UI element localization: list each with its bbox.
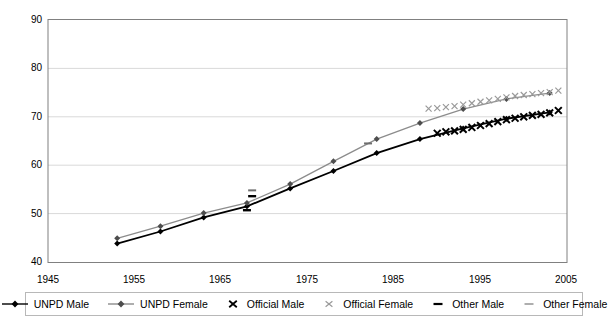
data-point-marker (529, 91, 535, 97)
legend-item-official-male: Official Male (226, 298, 305, 310)
data-point-marker (330, 158, 336, 164)
gridlines (48, 68, 567, 213)
series-official-female (426, 88, 562, 112)
data-point-marker (287, 181, 293, 187)
data-point-marker (417, 136, 423, 142)
plot-area (0, 0, 610, 325)
chart-container: 90 80 70 60 50 40 1945 1955 1965 1975 19… (0, 0, 610, 325)
legend-label: Other Male (452, 298, 504, 310)
series-official-male (434, 107, 562, 137)
data-point-marker (434, 105, 440, 111)
x-marker-icon (322, 298, 336, 310)
data-point-marker (478, 99, 484, 105)
data-point-marker (374, 150, 380, 156)
legend: UNPD Male UNPD Female Official Male Offi… (25, 292, 583, 316)
data-point-marker (443, 104, 449, 110)
line-diamond-icon (1, 298, 29, 310)
data-point-marker (417, 120, 423, 126)
series-unpd-male (114, 109, 553, 246)
data-point-marker (114, 235, 120, 241)
data-point-marker (114, 241, 120, 247)
legend-label: Official Male (247, 298, 305, 310)
data-point-marker (374, 136, 380, 142)
series-layer (114, 88, 562, 247)
data-point-marker (469, 100, 475, 106)
legend-item-unpd-male: UNPD Male (1, 298, 89, 310)
dash-marker-icon (431, 298, 445, 310)
legend-item-official-female: Official Female (322, 298, 413, 310)
legend-item-unpd-female: UNPD Female (107, 298, 208, 310)
dash-marker-icon (522, 298, 536, 310)
data-point-marker (426, 106, 432, 112)
data-point-marker (452, 103, 458, 109)
line-diamond-icon (107, 298, 135, 310)
x-marker-icon (226, 298, 240, 310)
legend-label: Official Female (343, 298, 413, 310)
legend-item-other-male: Other Male (431, 298, 504, 310)
data-point-marker (157, 229, 163, 235)
legend-label: Other Female (543, 298, 607, 310)
plot-frame (48, 20, 567, 263)
data-point-marker (538, 90, 544, 96)
legend-label: UNPD Female (140, 298, 208, 310)
series-line (117, 112, 550, 243)
data-point-marker (330, 168, 336, 174)
data-point-marker (555, 107, 562, 114)
legend-item-other-female: Other Female (522, 298, 607, 310)
legend-label: UNPD Male (34, 298, 89, 310)
data-point-marker (157, 223, 163, 229)
data-point-marker (547, 90, 553, 96)
data-point-marker (555, 88, 561, 94)
data-point-marker (201, 210, 207, 216)
